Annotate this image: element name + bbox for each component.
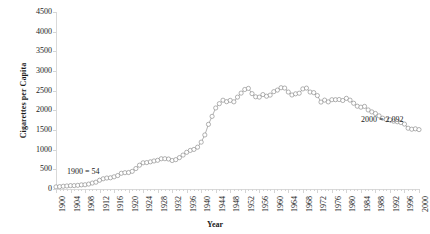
cigarettes-per-capita-chart: Cigarettes per Capita Year 0500100015002… <box>0 0 430 234</box>
x-axis-tick-mark <box>172 189 173 193</box>
data-point-marker <box>239 91 243 95</box>
x-axis-tick-mark <box>227 189 228 191</box>
data-point-marker <box>250 92 254 96</box>
x-axis-tick-mark <box>78 189 79 191</box>
plot-area: 0500100015002000250030003500400045001900… <box>56 12 419 189</box>
data-point-marker <box>232 100 236 104</box>
y-axis-tick-label: 1000 <box>36 146 52 154</box>
y-axis-tick-label: 4000 <box>36 28 52 36</box>
y-axis-tick-mark <box>53 71 56 72</box>
data-point-marker <box>177 156 181 160</box>
data-point-marker <box>206 122 210 126</box>
data-point-marker <box>297 91 301 95</box>
data-series-line <box>56 12 419 189</box>
x-axis-tick-mark <box>346 189 347 193</box>
x-axis-tick-mark <box>179 189 180 191</box>
x-axis-tick-mark <box>201 189 202 193</box>
x-axis-tick-mark <box>339 189 340 191</box>
y-axis-tick-label: 0 <box>48 185 52 193</box>
y-axis-tick-mark <box>53 130 56 131</box>
x-axis-tick-mark <box>158 189 159 193</box>
x-axis-tick-mark <box>285 189 286 191</box>
x-axis-tick-label: 1960 <box>277 196 285 212</box>
x-axis-tick-mark <box>238 189 239 191</box>
x-axis-tick-mark <box>125 189 126 191</box>
y-axis-tick-label: 2000 <box>36 106 52 114</box>
x-axis-tick-mark <box>150 189 151 191</box>
y-axis-tick-mark <box>53 91 56 92</box>
x-axis-tick-label: 1944 <box>219 196 227 212</box>
x-axis-tick-mark <box>71 189 72 193</box>
x-axis-tick-mark <box>292 189 293 191</box>
x-axis-tick-mark <box>205 189 206 191</box>
x-axis-tick-label: 1920 <box>132 196 140 212</box>
x-axis-tick-mark <box>143 189 144 193</box>
data-point-marker <box>217 102 221 106</box>
data-point-marker <box>417 128 421 132</box>
x-axis-tick-mark <box>325 189 326 191</box>
x-axis-tick-label: 1996 <box>407 196 415 212</box>
x-axis-tick-mark <box>365 189 366 191</box>
x-axis-tick-mark <box>212 189 213 191</box>
x-axis-tick-label: 1928 <box>161 196 169 212</box>
data-point-marker <box>362 104 366 108</box>
x-axis-tick-mark <box>343 189 344 191</box>
x-axis-tick-mark <box>361 189 362 193</box>
data-point-marker <box>352 101 356 105</box>
x-axis-tick-mark <box>187 189 188 193</box>
x-axis-tick-mark <box>161 189 162 191</box>
x-axis-tick-mark <box>245 189 246 193</box>
x-axis-tick-mark <box>401 189 402 191</box>
x-axis-tick-mark <box>165 189 166 191</box>
x-axis-tick-mark <box>412 189 413 191</box>
chart-annotation: 2000 = 2,092 <box>361 115 404 124</box>
x-axis-tick-mark <box>274 189 275 193</box>
x-axis-tick-mark <box>372 189 373 191</box>
x-axis-tick-mark <box>336 189 337 191</box>
data-point-marker <box>286 90 290 94</box>
x-axis-tick-mark <box>110 189 111 191</box>
x-axis-tick-mark <box>296 189 297 191</box>
x-axis-tick-mark <box>169 189 170 191</box>
data-point-marker <box>130 169 134 173</box>
data-point-marker <box>315 93 319 97</box>
x-axis-tick-mark <box>332 189 333 193</box>
x-axis-tick-mark <box>303 189 304 193</box>
x-axis-tick-label: 1956 <box>262 196 270 212</box>
y-axis-tick-label: 3500 <box>36 47 52 55</box>
x-axis-tick-mark <box>154 189 155 191</box>
x-axis-tick-mark <box>208 189 209 191</box>
x-axis-tick-mark <box>190 189 191 191</box>
x-axis-tick-mark <box>404 189 405 193</box>
y-axis-tick-label: 1500 <box>36 126 52 134</box>
x-axis-tick-mark <box>270 189 271 191</box>
x-axis-tick-mark <box>85 189 86 193</box>
x-axis-tick-mark <box>96 189 97 191</box>
x-axis-tick-mark <box>103 189 104 191</box>
x-axis-tick-mark <box>394 189 395 191</box>
x-axis-tick-label: 1932 <box>175 196 183 212</box>
x-axis-tick-label: 1904 <box>74 196 82 212</box>
x-axis-tick-mark <box>118 189 119 191</box>
x-axis-tick-mark <box>263 189 264 191</box>
x-axis-tick-mark <box>248 189 249 191</box>
x-axis-tick-label: 1976 <box>335 196 343 212</box>
x-axis-tick-mark <box>267 189 268 191</box>
x-axis-tick-mark <box>328 189 329 191</box>
y-axis-title: Cigarettes per Capita <box>19 26 28 176</box>
y-axis-tick-label: 3000 <box>36 67 52 75</box>
x-axis-tick-mark <box>74 189 75 191</box>
data-point-marker <box>348 98 352 102</box>
data-point-marker <box>312 91 316 95</box>
x-axis-tick-label: 1916 <box>117 196 125 212</box>
x-axis-tick-mark <box>354 189 355 191</box>
x-axis-tick-mark <box>408 189 409 191</box>
x-axis-tick-mark <box>63 189 64 191</box>
x-axis-tick-mark <box>107 189 108 191</box>
x-axis-tick-mark <box>390 189 391 193</box>
x-axis-tick-mark <box>216 189 217 193</box>
x-axis-tick-label: 1964 <box>291 196 299 212</box>
x-axis-tick-mark <box>306 189 307 191</box>
x-axis-tick-mark <box>368 189 369 191</box>
x-axis-tick-mark <box>321 189 322 191</box>
